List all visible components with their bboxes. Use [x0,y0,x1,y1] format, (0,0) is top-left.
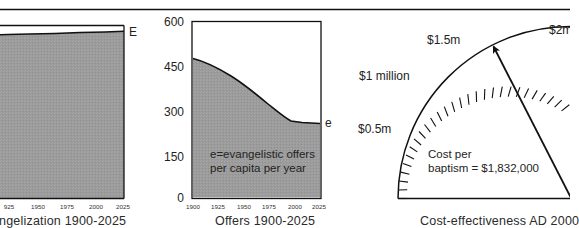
series-label-e: e [325,116,332,130]
y-tick-label: 600 [164,15,184,29]
x-tick-label: 1925 [211,203,225,210]
chart-evangelization: E 925 1950 1975 2000 2025 [0,14,165,219]
y-tick-label: 150 [164,150,184,164]
x-tick-label: 1975 [262,203,276,210]
area-series-e [193,59,320,198]
annotation-line-1: Cost per [428,148,472,160]
caption-evangelization: ...ngelization 1900-2025 [0,214,126,228]
gauge-pointer-arrow [494,47,571,201]
caption-offers: Offers 1900-2025 [215,214,315,228]
x-tick-label: 2025 [116,203,130,210]
x-tick-label: 2025 [312,203,326,210]
annotation-line-2: per capita per year [210,162,306,174]
annotation-line-2: baptism = $1,832,000 [428,162,539,174]
arc-label-2: $1.5m [427,33,460,47]
arc-label-3: $2m [549,23,570,37]
x-tick-label: 925 [4,203,15,210]
caption-cost-effectiveness: Cost-effectiveness AD 2000 [420,214,579,228]
area-series-E [0,31,124,198]
x-tick-label: 1900 [186,203,200,210]
chart-cost-effectiveness: $0.5m $1 million $1.5m $2m Cost per bapt… [340,14,570,219]
x-tick-label: 2000 [288,203,302,210]
chart-offers: 600 450 300 150 0 e e=evangelistic offer… [152,14,362,219]
annotation-line-1: e=evangelistic offers [210,148,315,160]
y-tick-label: 0 [177,191,184,205]
arc-label-1: $1 million [359,69,410,83]
series-label-E: E [129,25,137,39]
x-tick-label: 1950 [31,203,45,210]
arc-label-0: $0.5m [358,122,391,136]
y-tick-label: 450 [164,60,184,74]
x-tick-label: 1975 [60,203,74,210]
y-tick-label: 300 [164,105,184,119]
x-tick-label: 2000 [89,203,103,210]
x-tick-label: 1950 [237,203,251,210]
